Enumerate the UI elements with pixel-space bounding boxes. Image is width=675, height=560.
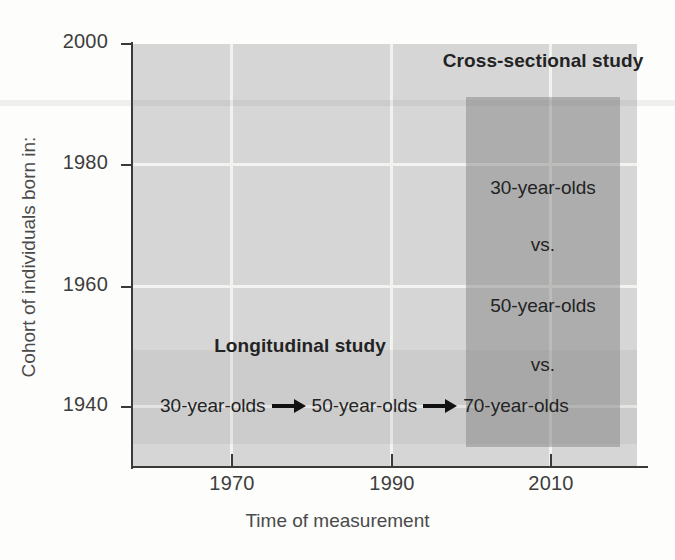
x-axis-title: Time of measurement <box>0 510 675 532</box>
longitudinal-study-heading: Longitudinal study <box>214 335 386 357</box>
cross-sectional-label-30-year-olds: 30-year-olds <box>490 177 596 199</box>
y-ticklabel-1940: 1940 <box>44 393 108 416</box>
x-tick-1970 <box>231 454 233 467</box>
y-axis-line <box>131 42 133 469</box>
longitudinal-study-sequence: 30-year-olds 50-year-olds 70-year-olds <box>160 395 569 417</box>
longitudinal-step-30-year-olds: 30-year-olds <box>160 395 266 417</box>
figure-canvas: 2000 1980 1960 1940 1970 1990 2010 Time … <box>0 0 675 560</box>
longitudinal-step-50-year-olds: 50-year-olds <box>312 395 418 417</box>
y-tick-1980 <box>121 164 132 166</box>
x-tick-2010 <box>550 454 552 467</box>
cross-sectional-label-vs-2: vs. <box>531 354 555 376</box>
cross-sectional-label-vs-1: vs. <box>531 234 555 256</box>
y-ticklabel-2000: 2000 <box>44 30 108 53</box>
x-tick-1990 <box>391 454 393 467</box>
x-ticklabel-1970: 1970 <box>187 472 277 495</box>
x-ticklabel-1990: 1990 <box>347 472 437 495</box>
y-ticklabel-1960: 1960 <box>44 273 108 296</box>
y-tick-2000 <box>121 43 132 45</box>
right-arrow-icon <box>272 398 306 414</box>
y-ticklabel-1980: 1980 <box>44 151 108 174</box>
y-tick-1960 <box>121 286 132 288</box>
right-arrow-icon <box>423 398 457 414</box>
y-axis-title: Cohort of individuals born in: <box>18 47 40 467</box>
cross-sectional-study-heading: Cross-sectional study <box>443 50 644 72</box>
cross-sectional-label-50-year-olds: 50-year-olds <box>490 295 596 317</box>
x-axis-line <box>131 466 648 468</box>
longitudinal-step-70-year-olds: 70-year-olds <box>463 395 569 417</box>
y-tick-1940 <box>121 406 132 408</box>
x-ticklabel-2010: 2010 <box>506 472 596 495</box>
